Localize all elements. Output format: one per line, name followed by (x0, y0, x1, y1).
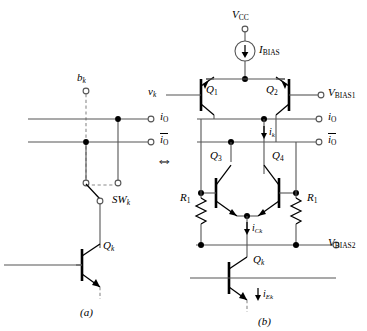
q4-emitter-arrow (258, 209, 266, 216)
terminal-io-bar-b[interactable] (316, 139, 322, 145)
resistor-right-r1 (291, 198, 301, 224)
iek-arrow-head (255, 295, 261, 301)
label-q1: Q1 (206, 84, 218, 97)
q2-emitter-arrow (281, 80, 287, 89)
label-ibias: IBIAS (259, 44, 280, 57)
terminal-io-bar[interactable] (148, 139, 154, 145)
label-vcc: VCC (232, 9, 249, 22)
terminal-vcc[interactable] (242, 26, 248, 32)
panel-b-schematic (166, 26, 339, 312)
terminal-io[interactable] (148, 116, 154, 122)
terminal-io-b[interactable] (316, 116, 322, 122)
caption-b: (b) (258, 315, 271, 327)
equivalence-symbol: ⇔ (156, 151, 173, 171)
label-vbias2: VBIAS2 (328, 237, 356, 250)
ick-arrow-head (244, 229, 250, 235)
label-iek: iEk (263, 289, 273, 301)
qk-emitter-arrow (92, 279, 100, 287)
label-q3: Q3 (210, 150, 222, 163)
qk-collector-lead-b (229, 257, 247, 269)
label-ick: iCk (252, 223, 262, 235)
label-vk: vk (148, 86, 156, 99)
label-r1-left: R1 (180, 192, 190, 205)
label-ik: ik (269, 127, 275, 139)
label-swk: SWk (112, 194, 130, 207)
label-qk-b: Qk (253, 254, 264, 267)
ik-arrow-head (261, 133, 267, 139)
resistor-left-r1 (196, 198, 206, 224)
q4-collector-lead (264, 165, 279, 185)
junction-vbias2-left (198, 242, 204, 248)
label-io-a: iO (160, 111, 168, 124)
label-io-bar-b: iO (328, 133, 336, 147)
figure-circuit-pair: .w{stroke:#555;stroke-width:1.1;fill:non… (0, 0, 367, 331)
qk-collector-lead (82, 244, 100, 256)
label-io-bar-a: iO (160, 133, 168, 147)
label-bk: bk (77, 72, 86, 85)
caption-a: (a) (80, 306, 93, 318)
switch-contact-iobar[interactable] (83, 180, 89, 186)
label-qk-a: Qk (103, 240, 114, 253)
switch-contact-io[interactable] (115, 180, 121, 186)
schematic-canvas: .w{stroke:#555;stroke-width:1.1;fill:non… (0, 0, 367, 331)
switch-pole[interactable] (97, 198, 103, 204)
qk-emitter-arrow-b (239, 292, 247, 300)
label-vbias1: VBIAS1 (328, 87, 356, 100)
label-q4: Q4 (272, 150, 284, 163)
q1-collector-lead (201, 104, 214, 115)
terminal-vbias1[interactable] (318, 92, 324, 98)
q3-emitter-arrow (229, 209, 237, 216)
q2-collector-lead (276, 104, 289, 115)
panel-a-schematic (4, 88, 154, 299)
label-q2: Q2 (266, 84, 278, 97)
junction-io (115, 116, 121, 122)
terminal-bk[interactable] (83, 88, 89, 94)
switch-blade[interactable] (86, 184, 100, 199)
q3-collector-lead (216, 165, 231, 185)
junction-vbias2-right (293, 242, 299, 248)
junction-iobar (83, 139, 89, 145)
label-r1-right: R1 (307, 192, 317, 205)
label-io-b: iO (328, 111, 336, 124)
